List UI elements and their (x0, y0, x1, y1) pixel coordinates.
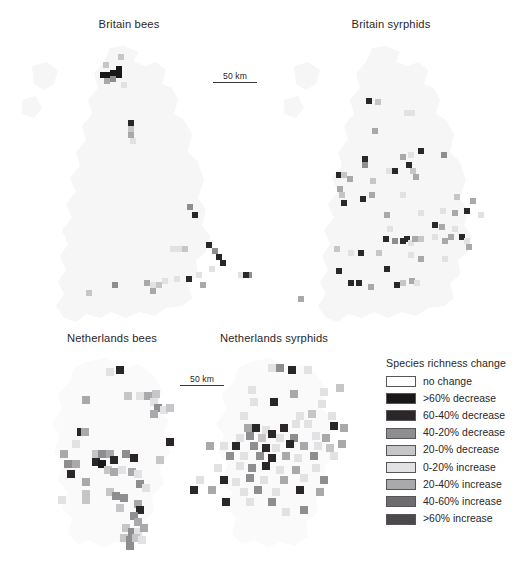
map-cell (326, 444, 334, 452)
map-cell (150, 282, 156, 288)
legend-swatch (386, 410, 416, 421)
legend-row: >60% increase (386, 511, 530, 528)
map-cell (440, 208, 446, 214)
map-cell (144, 280, 150, 286)
map-cell (222, 498, 230, 506)
map-cell (362, 156, 368, 162)
map-cell (294, 454, 302, 462)
map-cell (272, 488, 280, 496)
map-britain-syrphids (268, 40, 514, 328)
map-cell (336, 268, 342, 274)
map-cell (196, 272, 202, 278)
map-cell (258, 434, 266, 442)
scalebar-bottom: 50 km (180, 374, 224, 386)
map-cell (112, 282, 118, 288)
map-cell (408, 252, 414, 258)
map-cell (318, 400, 326, 408)
map-cell (406, 162, 412, 168)
map-cell (270, 398, 278, 406)
britain-outline (22, 46, 210, 322)
legend-label: 0-20% increase (423, 462, 496, 474)
map-cell (280, 476, 288, 484)
map-cell (250, 442, 258, 450)
map-cell (383, 236, 389, 242)
map-cell (439, 224, 445, 230)
map-cell (156, 456, 164, 464)
map-cell (358, 250, 364, 256)
map-cell (262, 462, 270, 470)
map-cell (392, 238, 398, 244)
map-cell (220, 442, 228, 450)
map-cell (118, 54, 124, 60)
scalebar-bottom-rule (180, 385, 224, 386)
map-cell (320, 476, 328, 484)
panel-title-netherlands-syrphids: Netherlands syrphids (186, 332, 362, 345)
legend-row: 20-0% decrease (386, 442, 530, 459)
map-cell (448, 234, 454, 240)
map-cell (166, 438, 174, 446)
map-cell (182, 246, 188, 252)
map-cell (452, 210, 458, 216)
legend-row: no change (386, 373, 530, 390)
map-cell (464, 238, 470, 244)
map-cell (128, 120, 134, 126)
map-cell (412, 236, 418, 242)
map-cell (150, 410, 158, 418)
map-cell (372, 128, 378, 134)
map-cell (206, 242, 212, 248)
map-cell (268, 430, 276, 438)
map-cell (246, 474, 254, 482)
panel-britain-syrphids: Britain syrphids (268, 18, 514, 328)
map-netherlands-bees (28, 354, 196, 560)
map-cell (260, 476, 268, 484)
panel-title-britain-syrphids: Britain syrphids (268, 18, 514, 31)
map-cell (170, 246, 176, 252)
map-cell (120, 494, 128, 502)
map-cell (368, 284, 374, 290)
map-cell (67, 470, 75, 478)
map-cell (348, 250, 354, 256)
legend-label: no change (423, 376, 472, 388)
map-cell (252, 424, 260, 432)
map-cell (64, 460, 72, 468)
map-cell (150, 288, 156, 294)
map-cell (220, 260, 226, 266)
legend-row: 60-40% decrease (386, 407, 530, 424)
map-cell (464, 208, 470, 214)
map-cell (268, 454, 276, 462)
map-cell (82, 396, 90, 404)
map-cell (140, 524, 148, 532)
map-cell (200, 282, 206, 288)
map-cell (249, 272, 252, 278)
map-cell (122, 450, 130, 458)
map-cell (386, 168, 392, 174)
map-cell (216, 254, 222, 260)
map-cell (276, 466, 284, 474)
map-cell (362, 162, 368, 168)
map-cell (304, 420, 312, 428)
map-cell (130, 138, 136, 144)
map-cell (310, 452, 318, 460)
map-cell (126, 542, 134, 550)
map-cell (466, 244, 472, 250)
map-cell (328, 412, 336, 420)
map-cell (360, 196, 366, 202)
map-cell (256, 452, 264, 460)
legend-label: 20-0% decrease (423, 444, 499, 456)
map-cell (236, 462, 244, 470)
map-cell (337, 186, 343, 192)
map-cell (384, 212, 390, 218)
legend-label: 40-20% decrease (423, 427, 505, 439)
map-cell (442, 256, 448, 262)
map-cell (176, 246, 182, 252)
map-cell (246, 432, 254, 440)
map-cell (134, 470, 142, 478)
map-cell (330, 422, 338, 430)
map-svg-britain-bees (6, 40, 252, 328)
map-cell (104, 78, 110, 84)
legend-row: 40-20% decrease (386, 425, 530, 442)
legend-label: >60% increase (423, 513, 493, 525)
map-cell (322, 434, 330, 442)
map-cell (312, 432, 320, 440)
map-cell (268, 498, 276, 506)
